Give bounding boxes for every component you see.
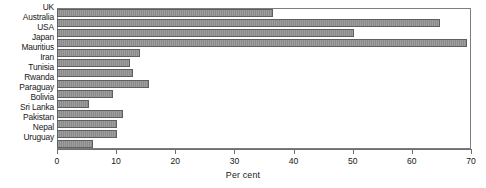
x-axis-line xyxy=(57,149,471,150)
category-label: USA xyxy=(0,23,54,32)
x-axis-tick xyxy=(412,149,413,154)
category-label: Sri Lanka xyxy=(0,103,54,112)
bar xyxy=(57,80,149,88)
x-axis-title: Per cent xyxy=(0,170,486,180)
x-axis-tick-label: 40 xyxy=(282,156,306,166)
bar xyxy=(57,140,93,148)
x-axis-tick xyxy=(353,149,354,154)
bar xyxy=(57,59,130,67)
bars-layer xyxy=(57,8,471,149)
category-label: Japan xyxy=(0,33,54,42)
x-axis-tick-label: 0 xyxy=(45,156,69,166)
x-axis-tick xyxy=(294,149,295,154)
bar xyxy=(57,39,467,47)
bar xyxy=(57,90,113,98)
bar xyxy=(57,130,117,138)
category-label: UK xyxy=(0,3,54,12)
category-label: Pakistan xyxy=(0,113,54,122)
x-axis-tick xyxy=(175,149,176,154)
category-label: Paraguay xyxy=(0,83,54,92)
category-label: Tunisia xyxy=(0,63,54,72)
x-axis-tick-label: 50 xyxy=(341,156,365,166)
category-label: Bolivia xyxy=(0,93,54,102)
bar xyxy=(57,69,133,77)
x-axis-tick-label: 10 xyxy=(104,156,128,166)
category-label: Rwanda xyxy=(0,73,54,82)
category-label: Uruguay xyxy=(0,133,54,142)
category-axis-labels: UKAustraliaUSAJapanMauritiusIranTunisiaR… xyxy=(0,9,54,149)
category-label: Mauritius xyxy=(0,43,54,52)
x-axis-tick xyxy=(57,149,58,154)
bar xyxy=(57,29,354,37)
bar-chart: UKAustraliaUSAJapanMauritiusIranTunisiaR… xyxy=(0,0,486,188)
x-axis-tick xyxy=(234,149,235,154)
x-axis-tick xyxy=(116,149,117,154)
bar xyxy=(57,19,440,27)
bar xyxy=(57,100,89,108)
x-axis-tick-label: 30 xyxy=(222,156,246,166)
x-axis-tick-label: 20 xyxy=(163,156,187,166)
category-label: Australia xyxy=(0,13,54,22)
x-axis-tick-label: 60 xyxy=(400,156,424,166)
bar xyxy=(57,120,117,128)
bar xyxy=(57,110,123,118)
bar xyxy=(57,9,273,17)
x-axis-tick-label: 70 xyxy=(459,156,483,166)
category-label: Nepal xyxy=(0,123,54,132)
bar xyxy=(57,49,140,57)
category-label: Iran xyxy=(0,53,54,62)
x-axis-tick xyxy=(471,149,472,154)
